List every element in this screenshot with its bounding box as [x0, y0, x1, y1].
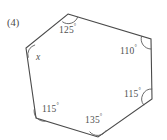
degree-symbol-top-right: ° [135, 44, 138, 50]
angle-label-bottom-right: 115° [124, 88, 141, 100]
figure-page: (4) 125° 110° 115° 135° 115° x [0, 0, 167, 140]
angle-label-bottom-left: 115° [42, 103, 59, 115]
angle-value-bottom: 135 [85, 115, 100, 125]
angle-value-top-right: 110 [120, 46, 135, 56]
angle-value-bottom-left: 115 [42, 104, 57, 114]
hexagon-figure [0, 0, 167, 140]
angle-label-top: 125° [59, 24, 76, 36]
degree-symbol-top: ° [74, 23, 77, 29]
angle-label-bottom: 135° [85, 114, 102, 126]
degree-symbol-bottom-right: ° [139, 87, 142, 93]
angle-value-top: 125 [59, 25, 74, 35]
degree-symbol-bottom: ° [100, 113, 103, 119]
angle-value-bottom-right: 115 [124, 89, 139, 99]
angle-label-top-right: 110° [120, 45, 137, 57]
angle-label-left-unknown: x [36, 53, 40, 63]
problem-number-label: (4) [7, 18, 19, 29]
degree-symbol-bottom-left: ° [57, 102, 60, 108]
